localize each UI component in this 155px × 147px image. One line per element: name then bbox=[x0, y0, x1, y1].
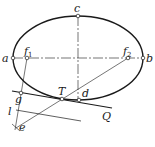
line-l bbox=[16, 110, 81, 121]
label-f1: f1 bbox=[23, 45, 33, 59]
label-f2: f2 bbox=[122, 45, 132, 59]
label-l: l bbox=[8, 105, 12, 118]
label-a: a bbox=[2, 52, 9, 65]
label-b: b bbox=[146, 52, 153, 65]
label-e: e bbox=[19, 121, 26, 134]
ellipse-diagram: a b c f1 f2 T d g l Q e bbox=[0, 0, 155, 147]
label-g: g bbox=[15, 93, 22, 106]
point-a bbox=[11, 56, 15, 60]
label-Q: Q bbox=[102, 110, 111, 123]
point-d bbox=[77, 98, 81, 102]
label-T: T bbox=[58, 85, 67, 98]
line-f2-e bbox=[16, 58, 128, 128]
point-b bbox=[141, 56, 145, 60]
label-d: d bbox=[82, 87, 89, 100]
label-c: c bbox=[74, 2, 80, 15]
